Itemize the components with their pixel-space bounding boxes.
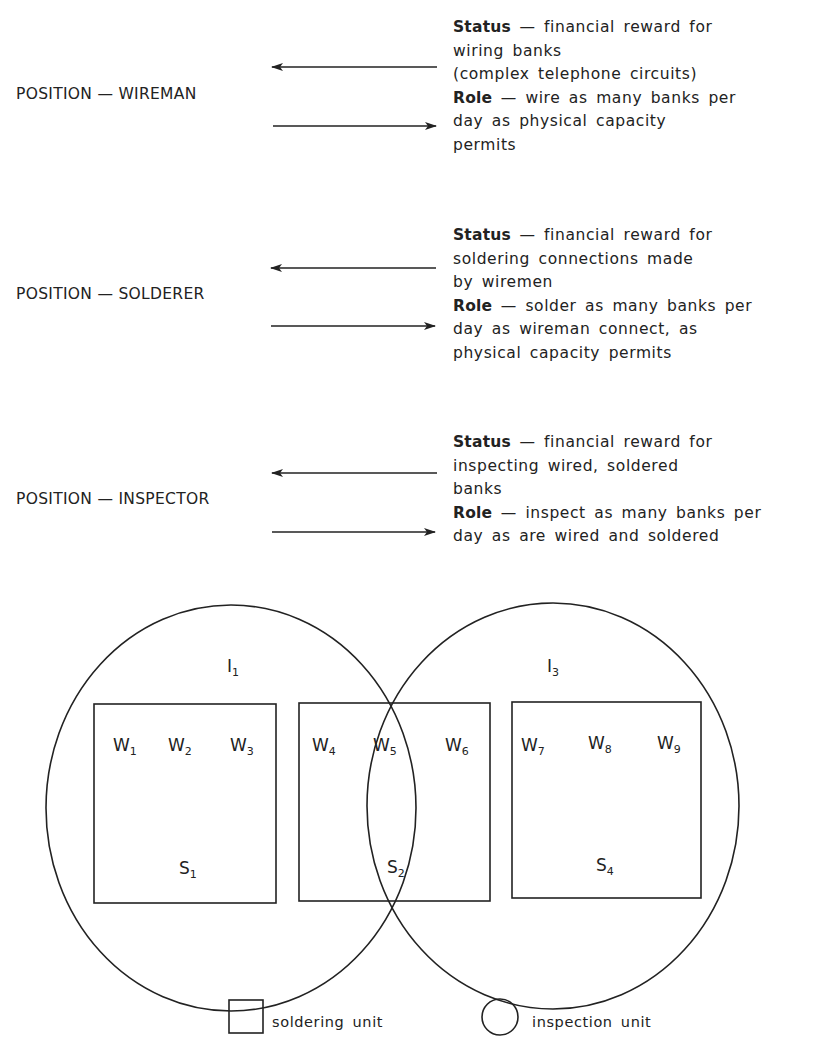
label-wireman-w2: W2 bbox=[168, 735, 192, 758]
role-line: physical capacity permits bbox=[453, 342, 752, 366]
status-line: (complex telephone circuits) bbox=[453, 63, 736, 87]
role-line: Role — inspect as many banks per bbox=[453, 502, 761, 526]
legend-soldering-unit: soldering unit bbox=[272, 1014, 383, 1030]
position-label-solderer: POSITION — SOLDERER bbox=[16, 285, 205, 303]
description-inspector: Status — financial reward for inspecting… bbox=[453, 431, 761, 549]
label-soldering-s2: S2 bbox=[387, 857, 405, 880]
label-wireman-w3: W3 bbox=[230, 735, 254, 758]
status-heading: Status bbox=[453, 226, 511, 244]
label-inspection-i1: I1 bbox=[227, 656, 239, 679]
status-line: by wiremen bbox=[453, 271, 752, 295]
description-solderer: Status — financial reward for soldering … bbox=[453, 224, 752, 366]
status-line: inspecting wired, soldered bbox=[453, 455, 761, 479]
label-soldering-s4: S4 bbox=[596, 855, 614, 878]
label-wireman-w7: W7 bbox=[521, 735, 545, 758]
legend-inspection-unit: inspection unit bbox=[532, 1014, 651, 1030]
role-heading: Role bbox=[453, 89, 492, 107]
label-soldering-s1: S1 bbox=[179, 858, 197, 881]
status-line: banks bbox=[453, 478, 761, 502]
position-label-wireman: POSITION — WIREMAN bbox=[16, 85, 197, 103]
role-line: Role — wire as many banks per bbox=[453, 87, 736, 111]
status-line: Status — financial reward for bbox=[453, 431, 761, 455]
legend-square-icon bbox=[229, 1000, 263, 1033]
status-heading: Status bbox=[453, 433, 511, 451]
status-line: Status — financial reward for bbox=[453, 224, 752, 248]
role-line: day as are wired and soldered bbox=[453, 525, 761, 549]
label-wireman-w4: W4 bbox=[312, 735, 336, 758]
status-heading: Status bbox=[453, 18, 511, 36]
role-line: Role — solder as many banks per bbox=[453, 295, 752, 319]
role-line: permits bbox=[453, 134, 736, 158]
label-wireman-w1: W1 bbox=[113, 735, 137, 758]
description-wireman: Status — financial reward for wiring ban… bbox=[453, 16, 736, 158]
label-wireman-w6: W6 bbox=[445, 735, 469, 758]
legend-circle-icon bbox=[482, 999, 518, 1035]
label-wireman-w8: W8 bbox=[588, 733, 612, 756]
position-label-inspector: POSITION — INSPECTOR bbox=[16, 490, 210, 508]
role-heading: Role bbox=[453, 504, 492, 522]
status-line: Status — financial reward for bbox=[453, 16, 736, 40]
role-heading: Role bbox=[453, 297, 492, 315]
role-line: day as physical capacity bbox=[453, 110, 736, 134]
label-wireman-w9: W9 bbox=[657, 733, 681, 756]
status-line: wiring banks bbox=[453, 40, 736, 64]
status-line: soldering connections made bbox=[453, 248, 752, 272]
label-inspection-i3: I3 bbox=[547, 656, 559, 679]
role-line: day as wireman connect, as bbox=[453, 318, 752, 342]
label-wireman-w5: W5 bbox=[373, 735, 397, 758]
